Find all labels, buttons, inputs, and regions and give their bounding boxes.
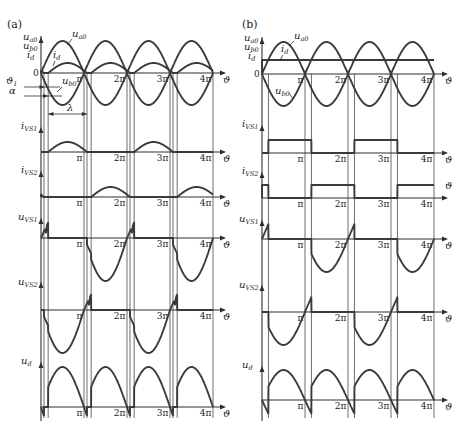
row-i_VS2: ϑπ2π3π4πiVS2 [242,165,452,209]
grid-lines [44,73,213,418]
lambda-label: λ [66,102,73,113]
tick-label-4pi: 4π [421,313,433,323]
axis-variable-label: ϑ [223,408,230,419]
axis-variable-label: ϑ [223,153,230,164]
origin-zero-label: 0 [254,69,260,79]
tick-label-2pi: 2π [335,401,347,411]
leader-u-a0 [289,41,294,46]
y-axis-arrow-icon [260,172,265,178]
axis-variable-label: ϑ [445,401,452,412]
axis-label-i-VS2: iVS2 [242,165,259,178]
tick-label-3pi: 3π [157,408,169,418]
panel-a: (a) ϑπ2π3π4πua0ub0idϑπ2π3π4πiVS1ϑπ2π3π4π… [6,18,230,421]
axis-variable-label: ϑ [223,198,230,209]
axis-label-u-VS1: uVS1 [239,213,259,226]
tick-label-2pi: 2π [114,408,126,418]
axis-variable-label: ϑ [223,311,230,322]
row-i_VS1: ϑπ2π3π4πiVS1 [242,118,452,165]
y-axis-arrow-icon [260,220,265,226]
tick-label-4pi: 4π [421,154,433,164]
axis-label-i-VS1: iVS1 [242,118,259,131]
y-axis-arrow-icon [260,38,265,44]
tick-label-4pi: 4π [200,198,212,208]
y-axis-arrow-icon [39,127,44,133]
y-axis-arrow-icon [39,218,44,224]
axis-variable-label: ϑ [445,180,452,191]
axis-variable-label: ϑ [445,154,452,165]
tick-label-1pi: π [77,153,83,163]
curve-label-i-d: id [53,49,60,62]
curve-label-u-b0: ub0 [275,85,290,98]
row-i_VS1: ϑπ2π3π4πiVS1 [21,120,230,164]
y-axis-arrow-icon [260,285,265,291]
tick-label-2pi: 2π [114,198,126,208]
row-sources: ϑπ2π3π4πua0ub0id [23,31,230,105]
tick-label-3pi: 3π [378,401,390,411]
axis-label-u-VS2: uVS2 [239,279,259,292]
panel-b: (b) ϑπ2π3π4πua0ub0idϑπ2π3π4πiVS1ϑπ2π3π4π… [239,18,452,421]
axis-label-u-d: ud [21,355,32,368]
tick-label-3pi: 3π [378,240,390,250]
tick-label-3pi: 3π [157,198,169,208]
tick-label-1pi: π [77,198,83,208]
axis-variable-label: ϑ [445,240,452,251]
tick-label-2pi: 2π [114,311,126,321]
y-axis-arrow-icon [39,282,44,288]
axis-variable-label: ϑ [223,74,230,85]
curve-label-u-b0: ub0 [62,75,77,88]
axis-label-i-VS1: iVS1 [21,120,38,133]
x-axis-arrow-icon [442,196,448,201]
tick-label-2pi: 2π [335,154,347,164]
tick-label-3pi: 3π [157,153,169,163]
tick-label-3pi: 3π [378,154,390,164]
tick-label-1pi: π [298,240,304,250]
panel-b-plots: ϑπ2π3π4πua0ub0idϑπ2π3π4πiVS1ϑπ2π3π4πiVS2… [239,32,452,421]
origin-zero-label: 0 [33,68,39,78]
tick-label-4pi: 4π [421,199,433,209]
row-i_VS2: ϑπ2π3π4πiVS2 [21,164,230,209]
axis-variable-label: ϑ [445,75,452,86]
axis-label-i-VS2: iVS2 [21,164,38,177]
curve-label-i-d: id [281,43,288,56]
panel-a-plots: ϑπ2π3π4πua0ub0idϑπ2π3π4πiVS1ϑπ2π3π4πiVS2… [18,31,230,421]
alpha-arrow-icon [43,94,48,98]
tick-label-2pi: 2π [335,313,347,323]
tick-label-1pi: π [298,199,304,209]
tick-label-1pi: π [77,239,83,249]
leader-i-d [53,61,55,66]
tick-label-4pi: 4π [200,311,212,321]
tick-label-4pi: 4π [421,401,433,411]
alpha-label: α [9,85,16,96]
leader-u-b0 [57,87,62,92]
axis-label-u-VS1: uVS1 [18,211,38,224]
y-axis-arrow-icon [260,125,265,131]
tick-label-4pi: 4π [200,153,212,163]
panel-label-b: (b) [242,18,258,31]
grid-lines [268,74,434,418]
tick-label-4pi: 4π [200,408,212,418]
y-axis-arrow-icon [260,366,265,372]
y-axis-arrow-icon [39,171,44,177]
tick-label-3pi: 3π [378,199,390,209]
row-u_VS2: ϑπ2π3π4πuVS2 [18,276,230,353]
row-u_d: ϑπ2π3π4πud [242,359,452,413]
curve-label-u-a0: ua0 [294,30,308,43]
waveform-figure: (a) ϑπ2π3π4πua0ub0idϑπ2π3π4πiVS1ϑπ2π3π4π… [0,0,469,438]
curve-label-u-a0: ua0 [72,28,86,41]
axis-label-u-VS2: uVS2 [18,276,38,289]
axis-variable-label: ϑ [223,239,230,250]
panel-label-a: (a) [7,18,22,31]
row-u_VS2: ϑπ2π3π4πuVS2 [239,279,452,345]
axis-label-u-d: ud [242,359,253,372]
tick-label-3pi: 3π [157,239,169,249]
row-u_VS1: ϑπ2π3π4πuVS1 [18,211,230,281]
tick-label-1pi: π [298,154,304,164]
row-u_VS1: ϑπ2π3π4πuVS1 [239,213,452,272]
tick-label-1pi: π [298,401,304,411]
y-axis-arrow-icon [39,362,44,368]
tick-label-2pi: 2π [335,199,347,209]
y-axis-arrow-icon [39,37,44,43]
lambda-arrow-left-icon [48,112,53,116]
tick-label-2pi: 2π [114,153,126,163]
row-u_d: ϑπ2π3π4πud [21,355,230,419]
